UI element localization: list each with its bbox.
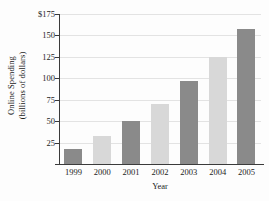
bar-slot xyxy=(175,14,203,164)
x-axis-tick-label: 1999 xyxy=(59,167,87,181)
x-axis-tick-label: 2005 xyxy=(232,167,260,181)
bar xyxy=(93,136,111,164)
x-axis-tick-label: 2003 xyxy=(175,167,203,181)
x-axis-tick-label: 2002 xyxy=(146,167,174,181)
x-axis-tick-labels: 1999200020012002200320042005 xyxy=(59,167,261,181)
x-axis-line xyxy=(55,164,264,165)
y-axis-tick-label: 75 xyxy=(47,95,56,105)
bar-slot xyxy=(88,14,116,164)
y-axis-title-text: Online Spending (billions of dollars) xyxy=(7,51,28,119)
bar xyxy=(151,104,169,164)
y-axis-tick-label: 125 xyxy=(42,52,55,62)
y-axis-tick-label: $175 xyxy=(38,9,55,19)
bar xyxy=(209,57,227,164)
bar xyxy=(237,29,255,164)
bar-slot xyxy=(146,14,174,164)
y-axis-tick-label: 150 xyxy=(42,30,55,40)
x-axis-tick-label: 2000 xyxy=(88,167,116,181)
bar-slot xyxy=(232,14,260,164)
bar xyxy=(64,149,82,164)
y-axis-tick-label: 100 xyxy=(42,73,55,83)
bar-series xyxy=(59,14,261,164)
y-axis-title: Online Spending (billions of dollars) xyxy=(0,0,34,170)
bar xyxy=(180,81,198,164)
y-axis-title-line2: (billions of dollars) xyxy=(17,51,27,119)
bar xyxy=(122,121,140,164)
bar-chart-figure: Online Spending (billions of dollars) 25… xyxy=(0,0,269,201)
x-axis-tick-label: 2001 xyxy=(117,167,145,181)
y-axis-tick-label: 25 xyxy=(47,138,56,148)
y-axis-title-line1: Online Spending xyxy=(7,56,17,115)
x-axis-title: Year xyxy=(59,181,261,191)
bar-slot xyxy=(204,14,232,164)
y-axis-tick-label: 50 xyxy=(47,116,56,126)
bar-slot xyxy=(117,14,145,164)
x-axis-tick-label: 2004 xyxy=(204,167,232,181)
bar-slot xyxy=(59,14,87,164)
